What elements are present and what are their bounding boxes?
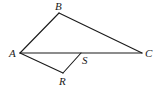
geometry-diagram (0, 0, 162, 90)
vertex-label-s: S (82, 55, 88, 66)
segment-ab (20, 13, 59, 53)
segment-bc (59, 13, 142, 53)
segment-rs (63, 53, 81, 73)
vertex-label-r: R (59, 76, 66, 87)
vertex-label-a: A (9, 48, 16, 59)
vertex-label-b: B (55, 1, 62, 12)
segment-ar (20, 53, 63, 73)
vertex-label-c: C (145, 48, 152, 59)
